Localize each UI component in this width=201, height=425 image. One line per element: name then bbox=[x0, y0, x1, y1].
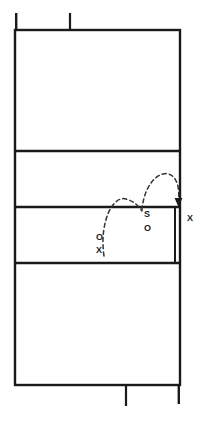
player-label-setter-s: S bbox=[144, 210, 150, 219]
player-label-right-o: O bbox=[144, 224, 151, 233]
player-label-left-o: O bbox=[96, 233, 103, 242]
trajectory-arrowhead-icon bbox=[175, 198, 183, 207]
player-label-left-x: X bbox=[96, 246, 102, 255]
volleyball-court-diagram: O X S O X bbox=[0, 0, 201, 425]
court-svg bbox=[0, 0, 201, 425]
ball-trajectory-arc-two bbox=[142, 174, 179, 210]
player-label-far-x: X bbox=[187, 214, 193, 223]
